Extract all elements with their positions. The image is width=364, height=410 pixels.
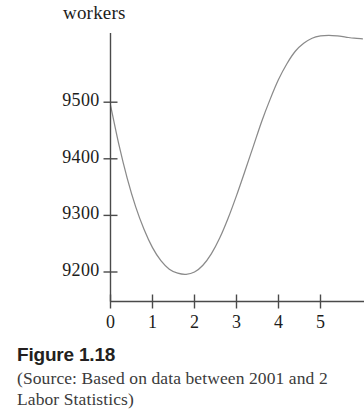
figure-source-note: (Source: Based on data between 2001 and … bbox=[17, 368, 364, 410]
figure-container: workers 9200930094009500 012345 Figure 1… bbox=[0, 0, 364, 410]
data-series-workers-line bbox=[111, 35, 363, 274]
figure-number-label: Figure 1.18 bbox=[17, 344, 364, 366]
y-axis-tick-label: 9300 bbox=[28, 203, 100, 224]
chart-svg bbox=[0, 0, 364, 338]
y-axis-tick-label: 9500 bbox=[28, 90, 100, 111]
x-axis-tick-label: 0 bbox=[100, 312, 122, 333]
figure-caption: Figure 1.18 (Source: Based on data betwe… bbox=[17, 344, 364, 410]
y-axis-tick-label: 9400 bbox=[28, 147, 100, 168]
x-axis-tick-label: 2 bbox=[184, 312, 206, 333]
x-axis-tick-label: 1 bbox=[142, 312, 164, 333]
x-axis-tick-label: 4 bbox=[268, 312, 290, 333]
y-axis-tick-label: 9200 bbox=[28, 260, 100, 281]
figure-source-line-2: Labor Statistics) bbox=[17, 389, 364, 410]
x-axis-tick-label: 3 bbox=[226, 312, 248, 333]
chart-plot-area: workers 9200930094009500 012345 bbox=[0, 0, 364, 338]
x-axis-tick-label: 5 bbox=[310, 312, 332, 333]
figure-source-line-1: (Source: Based on data between 2001 and … bbox=[17, 368, 364, 389]
